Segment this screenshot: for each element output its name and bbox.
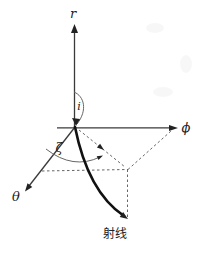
- azimuth-arc-arrowhead-icon: [97, 156, 103, 160]
- ray-label: 射线: [103, 226, 127, 241]
- scan-artifact: [153, 87, 173, 97]
- ray-coordinate-diagram: r ϕ θ i ζ 射线: [0, 0, 203, 254]
- phi-axis-label: ϕ: [182, 120, 191, 135]
- r-axis-label: r: [70, 6, 77, 21]
- azimuth-angle-label: ζ: [55, 140, 63, 155]
- scan-artifact: [146, 23, 164, 33]
- incidence-angle-label: i: [77, 100, 81, 113]
- phi-axis-arrowhead-icon: [169, 125, 178, 131]
- theta-axis-label: θ: [12, 189, 20, 204]
- projection-arrowhead-icon: [97, 144, 104, 150]
- r-axis-arrowhead-icon: [71, 24, 78, 33]
- scan-artifact: [180, 55, 192, 73]
- plane-dashed-line-horizontal: [42, 170, 128, 172]
- ray-curve: [75, 127, 124, 216]
- theta-axis: [29, 127, 75, 186]
- azimuth-angle-arc: [46, 149, 100, 162]
- plane-dashed-line-diagonal: [128, 131, 171, 170]
- diagram-canvas: r ϕ θ i ζ 射线: [0, 0, 203, 254]
- theta-axis-arrowhead-icon: [25, 183, 32, 191]
